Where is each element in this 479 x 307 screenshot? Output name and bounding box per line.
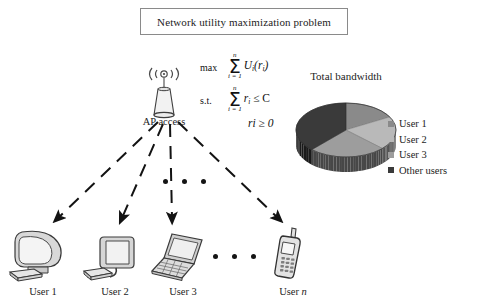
ellipsis-dot [182, 179, 187, 184]
device-label-index: n [302, 286, 307, 297]
objective-sigma-bottom: i = 1 [228, 73, 242, 80]
arrow-to-user-n [178, 122, 278, 218]
constraint-label: s.t. [200, 93, 226, 106]
device-label-text: User 3 [169, 286, 197, 297]
objective-body: Ui(ri) [244, 59, 269, 73]
figure-canvas: Network utility maximization problem AP … [0, 0, 479, 307]
device-label-text: User [279, 286, 301, 297]
ellipsis-dot [213, 254, 218, 259]
pie-chart-title: Total bandwidth [296, 70, 396, 82]
device-label-text: User 2 [101, 286, 129, 297]
objective-label: max [200, 60, 226, 73]
ellipsis-dot [201, 179, 206, 184]
device-label-user-n: User n [258, 286, 328, 297]
arrow-to-user-3 [170, 124, 172, 218]
figure-title-text: Network utility maximization problem [157, 16, 331, 28]
crt-monitor-icon [8, 228, 78, 284]
flat-monitor-icon [82, 234, 144, 284]
constraint-relation: ≤ C [250, 92, 270, 104]
ellipsis-dot [163, 179, 168, 184]
figure-title-box: Network utility maximization problem [140, 8, 348, 35]
ellipsis-dot [251, 254, 256, 259]
constraint-body: ri ≤ C [244, 92, 270, 106]
device-label-user-2: User 2 [80, 286, 150, 297]
downlink-arrows [0, 110, 479, 240]
ellipsis-devices [213, 254, 256, 259]
device-label-text: User 1 [29, 286, 57, 297]
objective-row: max n Σ i = 1 Ui(ri) [200, 52, 310, 80]
device-label-user-1: User 1 [8, 286, 78, 297]
ellipsis-arrows [163, 179, 206, 184]
objective-summation-icon: n Σ i = 1 [228, 52, 242, 80]
device-label-user-3: User 3 [148, 286, 218, 297]
laptop-icon [148, 232, 212, 284]
objective-fn: U [244, 59, 252, 71]
mobile-phone-icon [270, 226, 310, 284]
objective-arg-close: ) [264, 59, 268, 71]
ellipsis-dot [232, 254, 237, 259]
